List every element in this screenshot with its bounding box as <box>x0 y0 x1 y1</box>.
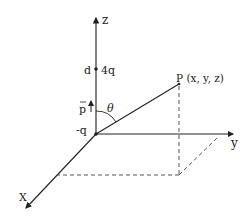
distance-label: d <box>84 64 91 77</box>
projection-y-parallel <box>179 136 219 175</box>
z-axis-label: z <box>102 13 108 27</box>
charge-4q-label: 4q <box>101 64 115 77</box>
diagram-canvas: z y X d 4q -q p θ P (x, y, z) <box>0 0 252 224</box>
charge-neg-q-dot <box>94 132 98 136</box>
y-axis-label: y <box>230 136 238 150</box>
x-axis <box>26 134 96 208</box>
charge-neg-q-label: -q <box>76 124 87 137</box>
dipole-label: p <box>79 103 86 116</box>
dipole-diagram: z y X d 4q -q p θ P (x, y, z) <box>0 0 252 224</box>
charge-4q-dot <box>94 67 98 71</box>
point-p-label: P (x, y, z) <box>176 72 224 84</box>
x-axis-label: X <box>19 191 27 204</box>
theta-label: θ <box>107 102 114 115</box>
